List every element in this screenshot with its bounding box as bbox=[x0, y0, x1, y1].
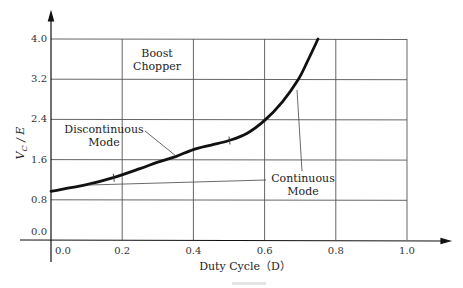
x-axis-arrow-icon bbox=[441, 239, 450, 244]
discontinuous-mode-label-line1: Discontinuous bbox=[64, 123, 144, 136]
leader-lines bbox=[89, 90, 302, 185]
curve-tick-marker bbox=[229, 137, 230, 145]
grid-line-h bbox=[51, 79, 407, 80]
y-tick-label: 2.4 bbox=[31, 113, 47, 124]
continuous-leader-lower bbox=[89, 180, 266, 185]
y-tick-label: 4.0 bbox=[31, 33, 47, 44]
y-axis-arrow-icon bbox=[49, 12, 54, 21]
y-tick-label: 3.2 bbox=[31, 73, 47, 84]
y-tick-label: 0.8 bbox=[31, 194, 47, 205]
x-axis-label: Duty Cycle（D） bbox=[199, 260, 291, 273]
y-tick-label: 0.0 bbox=[31, 226, 47, 237]
continuous-mode-label-line2: Mode bbox=[287, 185, 318, 198]
x-tick-label: 0.2 bbox=[114, 245, 130, 256]
boost-chopper-chart: 0.00.81.62.43.24.0 0.00.20.40.60.81.0 Bo… bbox=[0, 0, 463, 288]
svg-text:VC / E: VC / E bbox=[14, 127, 29, 160]
axes bbox=[20, 12, 450, 262]
grid-line-h bbox=[51, 160, 407, 161]
y-axis-label: VC / E bbox=[14, 127, 29, 160]
x-tick-label: 0.0 bbox=[55, 245, 71, 256]
grid-line-h bbox=[51, 200, 407, 201]
y-tick-labels: 0.00.81.62.43.24.0 bbox=[31, 33, 47, 237]
x-axis bbox=[20, 240, 444, 241]
grid-line-h bbox=[51, 39, 407, 40]
y-tick-label: 1.6 bbox=[31, 154, 47, 165]
discontinuous-mode-label-line2: Mode bbox=[88, 136, 119, 149]
x-tick-labels: 0.00.20.40.60.81.0 bbox=[55, 245, 415, 256]
x-tick-label: 0.8 bbox=[328, 245, 344, 256]
boost-chopper-label-line1: Boost bbox=[141, 47, 173, 60]
caption-fragment bbox=[232, 282, 266, 285]
curve-tick-marker bbox=[113, 174, 114, 182]
boost-chopper-label-line2: Chopper bbox=[133, 60, 182, 73]
continuous-leader-upper bbox=[297, 90, 302, 171]
grid-line-h bbox=[51, 119, 407, 120]
continuous-mode-label-line1: Continuous bbox=[271, 172, 335, 185]
data-curve bbox=[51, 39, 318, 191]
discontinuous-leader bbox=[145, 131, 176, 156]
y-axis-label-tail: / E bbox=[14, 127, 27, 146]
x-tick-label: 1.0 bbox=[399, 245, 415, 256]
x-tick-label: 0.6 bbox=[257, 245, 273, 256]
x-tick-label: 0.4 bbox=[185, 245, 201, 256]
